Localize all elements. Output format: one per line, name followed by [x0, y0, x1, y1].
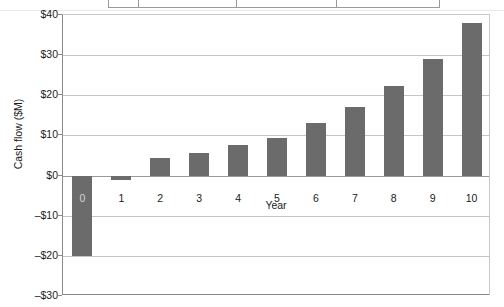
- y-axis-tick-label: $20: [6, 89, 58, 99]
- bar: [189, 153, 209, 176]
- y-axis-tick-label: –$30: [6, 290, 58, 300]
- bar: [111, 176, 131, 180]
- x-axis-title: Year: [62, 199, 490, 211]
- y-axis-tick-label: $0: [6, 170, 58, 180]
- gridline: [63, 55, 489, 56]
- y-axis-tick-label: $30: [6, 49, 58, 59]
- bar: [306, 123, 326, 175]
- y-axis-tick-label: –$10: [6, 210, 58, 220]
- bar: [72, 176, 92, 256]
- bar: [150, 158, 170, 175]
- cash-flow-bar-chart: Cash flow ($M) $40$30$20$10$0–$10–$20–$3…: [0, 0, 504, 307]
- bar: [384, 86, 404, 175]
- y-axis-tick-label: $40: [6, 9, 58, 19]
- bar: [345, 107, 365, 175]
- plot-area: 012345678910: [62, 14, 490, 295]
- bar: [228, 145, 248, 176]
- bar: [423, 59, 443, 175]
- gridline: [63, 216, 489, 217]
- bar: [462, 23, 482, 176]
- bar: [267, 138, 287, 175]
- y-axis-tick-label: –$20: [6, 250, 58, 260]
- y-axis-tick-label: $10: [6, 129, 58, 139]
- y-axis-tick-mark: [57, 295, 62, 296]
- gridline: [63, 256, 489, 257]
